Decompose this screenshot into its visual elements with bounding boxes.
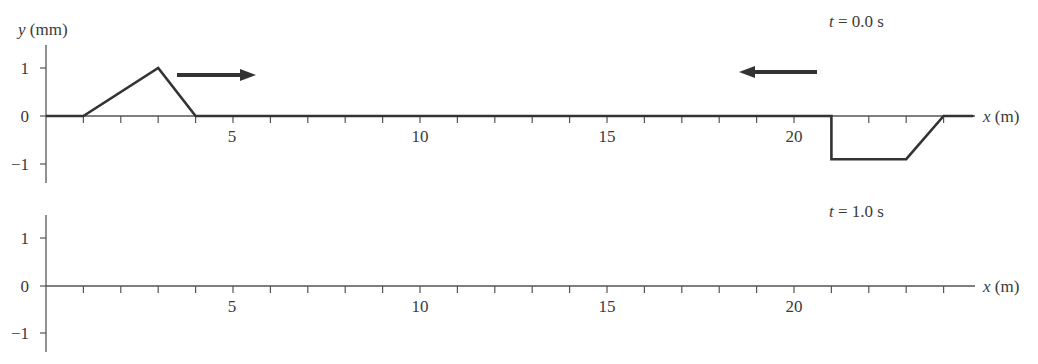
bottom-ytick-1: 1 bbox=[21, 229, 30, 248]
bottom-xtick-10: 10 bbox=[412, 297, 429, 316]
top-panel: y (mm) 1 0 −1 5 10 15 20 x (m) t = 0.0 s bbox=[11, 12, 1019, 183]
left-arrow-icon bbox=[739, 66, 817, 78]
bottom-ytick-neg1: −1 bbox=[11, 324, 29, 343]
bottom-x-axis-label: x (m) bbox=[982, 277, 1019, 296]
top-xtick-20: 20 bbox=[786, 127, 803, 146]
bottom-time-label: t = 1.0 s bbox=[829, 202, 884, 221]
bottom-ytick-0: 0 bbox=[21, 277, 30, 296]
top-y-ticks bbox=[40, 68, 46, 164]
y-axis-label: y (mm) bbox=[16, 20, 68, 39]
bottom-xtick-15: 15 bbox=[599, 297, 616, 316]
top-xtick-10: 10 bbox=[412, 127, 429, 146]
top-x-axis-label: x (m) bbox=[982, 107, 1019, 126]
bottom-panel: 1 0 −1 5 10 15 20 x (m) t = 1.0 s bbox=[11, 202, 1019, 352]
bottom-x-ticks bbox=[83, 286, 943, 293]
bottom-xtick-5: 5 bbox=[228, 297, 237, 316]
right-arrow-icon bbox=[177, 69, 256, 81]
bottom-y-ticks bbox=[40, 238, 46, 333]
top-xtick-15: 15 bbox=[599, 127, 616, 146]
top-ytick-0: 0 bbox=[21, 107, 30, 126]
top-ytick-neg1: −1 bbox=[11, 155, 29, 174]
top-xtick-5: 5 bbox=[228, 127, 237, 146]
wave-curve bbox=[46, 68, 974, 159]
wave-figure: y (mm) 1 0 −1 5 10 15 20 x (m) t = 0.0 s bbox=[0, 0, 1038, 364]
bottom-xtick-20: 20 bbox=[786, 297, 803, 316]
top-time-label: t = 0.0 s bbox=[829, 12, 884, 31]
top-ytick-1: 1 bbox=[21, 59, 30, 78]
